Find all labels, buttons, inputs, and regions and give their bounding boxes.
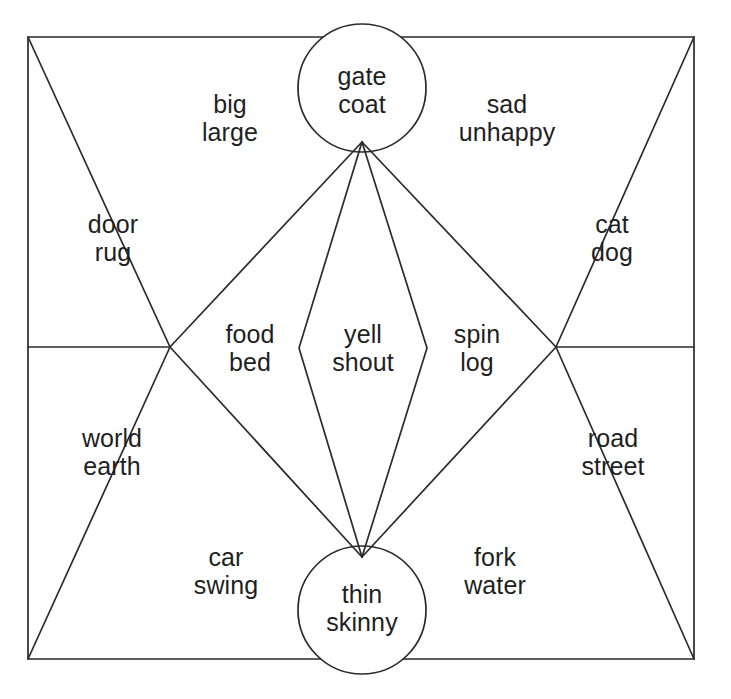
region-label-food-bed: food bed: [225, 321, 274, 376]
region-label-car-swing: car swing: [194, 544, 258, 599]
region-label-fork-water: fork water: [464, 544, 526, 599]
region-label-world-earth: world earth: [82, 425, 142, 480]
label-line: thin: [326, 581, 397, 609]
label-line: street: [581, 452, 644, 480]
label-line: dog: [591, 238, 633, 266]
label-line: large: [202, 118, 258, 146]
label-line: rug: [88, 238, 138, 266]
region-label-gate-coat: gate coat: [337, 63, 386, 118]
region-label-door-rug: door rug: [88, 211, 138, 266]
label-line: shout: [332, 348, 394, 376]
label-line: food: [225, 321, 274, 349]
region-label-big-large: big large: [202, 91, 258, 146]
region-label-thin-skinny: thin skinny: [326, 581, 397, 636]
label-line: skinny: [326, 608, 397, 636]
label-line: fork: [464, 544, 526, 572]
label-line: yell: [332, 321, 394, 349]
region-label-sad-unhappy: sad unhappy: [459, 91, 556, 146]
label-line: log: [454, 348, 500, 376]
label-line: spin: [454, 321, 500, 349]
label-line: car: [194, 544, 258, 572]
label-line: bed: [225, 348, 274, 376]
diagram-canvas: gate coat big large sad unhappy door rug…: [0, 0, 731, 699]
label-line: swing: [194, 571, 258, 599]
label-line: water: [464, 571, 526, 599]
region-label-yell-shout: yell shout: [332, 321, 394, 376]
region-label-cat-dog: cat dog: [591, 211, 633, 266]
label-line: coat: [337, 90, 386, 118]
label-line: door: [88, 211, 138, 239]
region-label-road-street: road street: [581, 425, 644, 480]
label-line: gate: [337, 63, 386, 91]
label-line: sad: [459, 91, 556, 119]
label-line: earth: [82, 452, 142, 480]
label-line: road: [581, 425, 644, 453]
region-label-spin-log: spin log: [454, 321, 500, 376]
label-line: world: [82, 425, 142, 453]
label-line: cat: [591, 211, 633, 239]
label-line: unhappy: [459, 118, 556, 146]
label-line: big: [202, 91, 258, 119]
